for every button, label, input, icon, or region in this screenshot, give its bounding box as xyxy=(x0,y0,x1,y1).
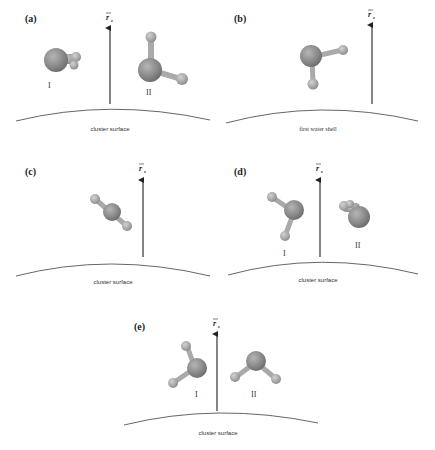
water-molecule-I xyxy=(168,341,207,388)
water-molecule-II xyxy=(138,32,188,86)
svg-text:r: r xyxy=(139,164,143,173)
vector-label-e: r s xyxy=(213,319,220,329)
water-shell-arc xyxy=(226,110,418,123)
svg-text:r: r xyxy=(213,319,217,328)
svg-text:r: r xyxy=(368,10,372,19)
panel-d: (d) r s I II cluster surface xyxy=(228,164,418,283)
water-molecule xyxy=(300,45,348,90)
svg-text:s: s xyxy=(372,15,375,20)
vector-label-d: r s xyxy=(316,164,323,174)
svg-text:r: r xyxy=(316,164,320,173)
vector-label-c: r s xyxy=(139,164,146,174)
water-molecule-I xyxy=(44,48,81,72)
panel-label-a: (a) xyxy=(25,13,37,25)
surface-caption-e: cluster surface xyxy=(198,430,238,436)
water-molecule-II xyxy=(230,351,281,384)
panel-label-d: (d) xyxy=(234,166,246,178)
molecule-label-II: II xyxy=(355,241,361,250)
svg-text:s: s xyxy=(320,169,323,174)
water-molecule xyxy=(90,194,132,231)
surface-caption-a: cluster surface xyxy=(90,126,130,132)
panel-label-b: (b) xyxy=(234,13,246,25)
svg-text:s: s xyxy=(143,169,146,174)
surface-caption-c: cluster surface xyxy=(93,279,133,285)
water-molecule-II xyxy=(339,200,370,228)
cluster-surface-arc xyxy=(228,262,418,275)
molecule-label-I: I xyxy=(48,81,51,90)
panel-label-e: (e) xyxy=(134,321,145,333)
vector-label-b: r s xyxy=(368,10,375,20)
svg-text:s: s xyxy=(110,18,113,23)
panel-label-c: (c) xyxy=(25,166,36,178)
figure-canvas: (a) r s I II cluster surface (b) xyxy=(0,0,435,450)
vector-label-a: r s xyxy=(106,13,113,23)
surface-caption-b: first water shell xyxy=(299,126,337,132)
molecule-label-II: II xyxy=(146,88,152,97)
panel-e: (e) r s I II cluster surface xyxy=(124,319,318,436)
panel-a: (a) r s I II cluster surface xyxy=(16,13,210,132)
molecule-label-II: II xyxy=(251,390,257,399)
water-molecule-I xyxy=(267,192,304,241)
molecule-label-I: I xyxy=(195,390,198,399)
cluster-surface-arc xyxy=(16,264,210,276)
svg-text:r: r xyxy=(106,13,110,22)
panel-b: (b) r s first water shell xyxy=(226,10,418,132)
cluster-surface-arc xyxy=(16,109,210,121)
panel-c: (c) r s cluster surface xyxy=(16,164,210,285)
surface-caption-d: cluster surface xyxy=(298,277,338,283)
molecule-label-I: I xyxy=(283,249,286,258)
cluster-surface-arc xyxy=(124,413,318,425)
svg-text:s: s xyxy=(217,324,220,329)
